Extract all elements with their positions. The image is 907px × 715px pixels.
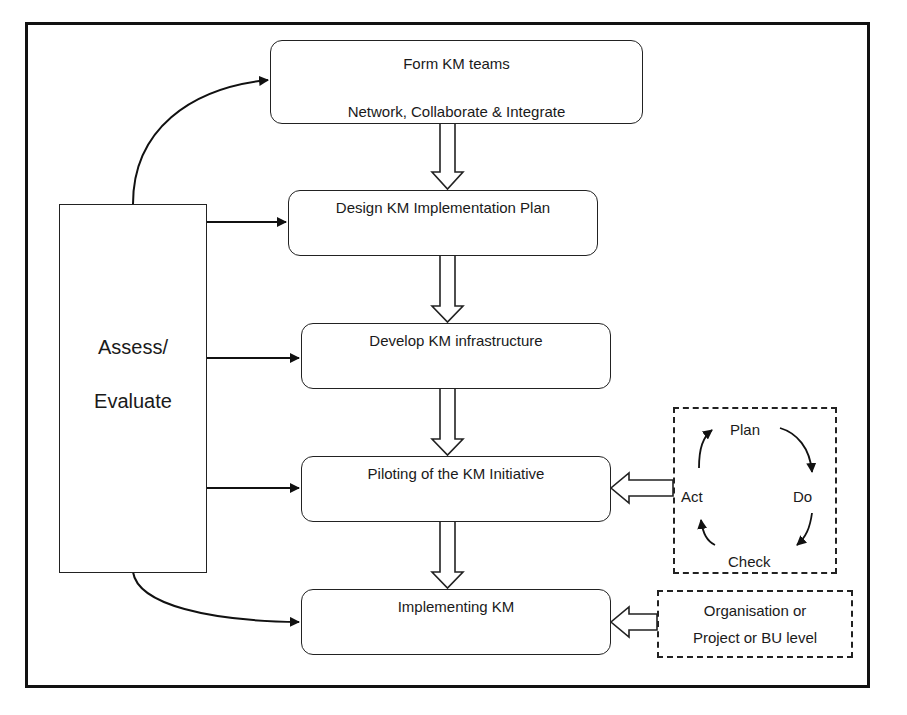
step-implementing: Implementing KM: [301, 589, 611, 655]
step-design-plan: Design KM Implementation Plan: [288, 190, 598, 256]
arrow-assess-to-form-teams: [133, 80, 268, 204]
scope-line-1: Organisation or: [704, 597, 807, 624]
evaluate-label: Evaluate: [94, 374, 172, 428]
step-subtitle: Network, Collaborate & Integrate: [271, 103, 642, 120]
step-form-km-teams: Form KM teams Network, Collaborate & Int…: [270, 40, 643, 124]
pdca-do-label: Do: [793, 488, 812, 505]
step-title: Form KM teams: [271, 55, 642, 72]
pdca-check-label: Check: [728, 553, 771, 570]
pdca-cycle-box: Plan Do Check Act: [673, 407, 837, 574]
step-title: Develop KM infrastructure: [302, 332, 610, 349]
step-title: Implementing KM: [302, 598, 610, 615]
pdca-plan-label: Plan: [730, 421, 760, 438]
assess-label: Assess/: [98, 320, 168, 374]
step-title: Design KM Implementation Plan: [289, 199, 597, 216]
scope-level-box: Organisation or Project or BU level: [657, 590, 853, 658]
pdca-act-label: Act: [681, 488, 703, 505]
assess-evaluate-box: Assess/ Evaluate: [59, 204, 207, 573]
step-develop-infrastructure: Develop KM infrastructure: [301, 323, 611, 389]
step-piloting: Piloting of the KM Initiative: [301, 456, 611, 522]
arrow-assess-to-implementing: [133, 572, 299, 622]
scope-line-2: Project or BU level: [693, 624, 817, 651]
step-title: Piloting of the KM Initiative: [302, 465, 610, 482]
